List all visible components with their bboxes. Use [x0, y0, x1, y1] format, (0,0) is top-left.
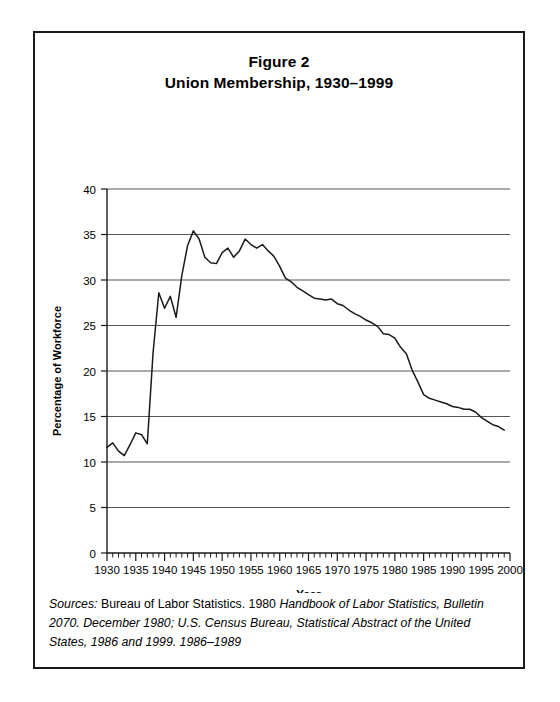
figure-title-line-1: Figure 2 — [35, 51, 523, 72]
chart-y-ticks — [101, 189, 107, 553]
svg-text:1950: 1950 — [209, 564, 235, 576]
union-membership-line-chart: 0510152025303540 19301935194019451950195… — [35, 123, 527, 593]
svg-text:1955: 1955 — [238, 564, 264, 576]
source-label: Sources: — [49, 597, 98, 611]
chart-x-axis-title: Year — [296, 588, 321, 593]
svg-text:1995: 1995 — [468, 564, 494, 576]
svg-text:15: 15 — [83, 411, 96, 423]
chart-x-tick-labels: 1930193519401945195019551960196519701975… — [94, 564, 523, 576]
figure-title: Figure 2 Union Membership, 1930–1999 — [35, 51, 523, 93]
svg-text:35: 35 — [83, 229, 96, 241]
svg-text:1935: 1935 — [123, 564, 149, 576]
chart-data-line — [107, 231, 504, 456]
svg-text:1990: 1990 — [440, 564, 466, 576]
chart-y-axis-title: Percentage of Workforce — [51, 306, 63, 436]
svg-text:1970: 1970 — [324, 564, 350, 576]
svg-text:30: 30 — [83, 275, 96, 287]
svg-text:1985: 1985 — [411, 564, 437, 576]
svg-text:1945: 1945 — [181, 564, 207, 576]
svg-text:40: 40 — [83, 184, 96, 196]
svg-text:1940: 1940 — [152, 564, 178, 576]
svg-text:Percentage of Workforce: Percentage of Workforce — [51, 306, 63, 436]
svg-text:1930: 1930 — [94, 564, 120, 576]
svg-text:0: 0 — [90, 548, 96, 560]
svg-text:1960: 1960 — [267, 564, 293, 576]
svg-text:Year: Year — [296, 588, 321, 593]
source-roman-text: Bureau of Labor Statistics. 1980 — [98, 597, 280, 611]
chart-gridlines — [107, 189, 510, 508]
svg-text:20: 20 — [83, 366, 96, 378]
svg-text:10: 10 — [83, 457, 96, 469]
chart-x-major-ticks — [107, 553, 510, 561]
svg-text:1980: 1980 — [382, 564, 408, 576]
figure-title-line-2: Union Membership, 1930–1999 — [35, 72, 523, 93]
chart-y-tick-labels: 0510152025303540 — [83, 184, 96, 560]
svg-text:1975: 1975 — [353, 564, 379, 576]
figure-frame: Figure 2 Union Membership, 1930–1999 051… — [33, 31, 525, 669]
svg-text:2000: 2000 — [497, 564, 523, 576]
svg-text:1965: 1965 — [296, 564, 322, 576]
svg-text:5: 5 — [90, 502, 96, 514]
svg-text:25: 25 — [83, 320, 96, 332]
source-note: Sources: Bureau of Labor Statistics. 198… — [49, 595, 511, 652]
chart-plot-area: 0510152025303540 19301935194019451950195… — [35, 123, 527, 593]
